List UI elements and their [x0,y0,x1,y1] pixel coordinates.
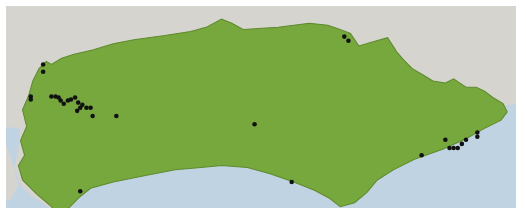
occurrence-marker [84,106,89,111]
region-map [6,6,516,208]
occurrence-marker [28,97,33,102]
occurrence-marker [419,153,424,158]
occurrence-marker [41,62,46,67]
map-frame [6,6,516,208]
occurrence-marker [252,122,257,127]
occurrence-marker [114,114,119,119]
occurrence-marker [78,189,83,194]
occurrence-marker [75,109,80,114]
occurrence-marker [447,146,452,151]
occurrence-marker [455,146,460,151]
occurrence-marker [346,38,351,43]
occurrence-marker [73,95,78,100]
occurrence-marker [61,101,66,106]
occurrence-marker [289,180,294,185]
occurrence-marker [475,134,480,139]
occurrence-marker [41,69,46,74]
occurrence-marker [451,146,456,151]
occurrence-marker [464,137,469,142]
occurrence-marker [49,94,54,99]
occurrence-marker [443,137,448,142]
occurrence-marker [460,142,465,147]
occurrence-marker [342,34,347,39]
occurrence-marker [88,106,93,111]
occurrence-marker [90,114,95,119]
occurrence-marker [76,100,81,105]
occurrence-marker [69,97,74,102]
occurrence-marker [475,130,480,135]
